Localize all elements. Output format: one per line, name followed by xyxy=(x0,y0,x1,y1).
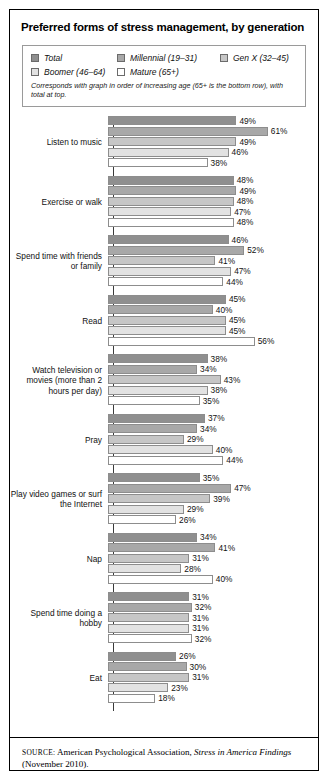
bar-group-bars: 31%32%31%31%32% xyxy=(108,592,318,645)
bar-group: Spend time doing a hobby31%32%31%31%32% xyxy=(10,592,318,652)
legend-swatch-millennial xyxy=(117,54,125,62)
bar xyxy=(108,424,197,433)
bar-row: 40% xyxy=(108,445,318,454)
bar-group: Watch television or movies (more than 2 … xyxy=(10,354,318,414)
bar xyxy=(108,137,236,146)
bar-value-label: 49% xyxy=(239,186,256,196)
bar-row: 31% xyxy=(108,554,318,563)
bar xyxy=(108,484,231,493)
bar-row: 23% xyxy=(108,683,318,692)
bar-group: Pray37%34%29%40%44% xyxy=(10,414,318,474)
legend-item-total: Total xyxy=(31,53,117,63)
bar-row: 41% xyxy=(108,256,318,265)
bar-group-label: Listen to music xyxy=(10,137,108,147)
bar xyxy=(108,435,184,444)
bar-value-label: 61% xyxy=(271,126,288,136)
legend-item-mature: Mature (65+) xyxy=(117,67,179,77)
bar xyxy=(108,365,197,374)
legend-item-genx: Gen X (32–45) xyxy=(220,53,289,63)
legend-swatch-mature xyxy=(117,68,125,76)
bar-value-label: 38% xyxy=(211,385,228,395)
legend-label-genx: Gen X (32–45) xyxy=(233,53,289,63)
bar-row: 35% xyxy=(108,473,318,482)
bar xyxy=(108,386,208,395)
bar xyxy=(108,207,231,216)
bar-group: Read45%40%45%45%56% xyxy=(10,295,318,355)
bar-row: 47% xyxy=(108,484,318,493)
bar xyxy=(108,634,192,643)
bar-row: 31% xyxy=(108,613,318,622)
bar-group-bars: 35%47%39%29%26% xyxy=(108,473,318,526)
chart-figure: Preferred forms of stress management, by… xyxy=(9,9,319,771)
bar-group-label: Nap xyxy=(10,554,108,564)
bar-group-bars: 26%30%31%23%18% xyxy=(108,652,318,705)
bar-value-label: 43% xyxy=(224,375,241,385)
bar-value-label: 48% xyxy=(237,217,254,227)
bar xyxy=(108,316,226,325)
bar xyxy=(108,662,187,671)
bar-row: 29% xyxy=(108,435,318,444)
bar-row: 46% xyxy=(108,235,318,244)
bar-value-label: 49% xyxy=(239,137,256,147)
bar xyxy=(108,683,168,692)
bar-row: 29% xyxy=(108,505,318,514)
bar xyxy=(108,603,192,612)
bar-value-label: 39% xyxy=(213,494,230,504)
bar-value-label: 47% xyxy=(234,483,251,493)
bar-row: 47% xyxy=(108,267,318,276)
bar-row: 45% xyxy=(108,316,318,325)
bar-value-label: 38% xyxy=(211,354,228,364)
bar-row: 34% xyxy=(108,424,318,433)
bar xyxy=(108,116,236,125)
bar-group-bars: 45%40%45%45%56% xyxy=(108,295,318,348)
bar-value-label: 46% xyxy=(232,147,249,157)
bar-group: Exercise or walk48%49%48%47%48% xyxy=(10,176,318,236)
bar-value-label: 26% xyxy=(179,515,196,525)
bar-row: 38% xyxy=(108,386,318,395)
bar xyxy=(108,186,236,195)
bar-value-label: 37% xyxy=(208,413,225,423)
bar-value-label: 31% xyxy=(192,623,209,633)
bar-value-label: 23% xyxy=(171,683,188,693)
bar xyxy=(108,396,200,405)
bar xyxy=(108,127,268,136)
bar xyxy=(108,305,213,314)
bar-row: 38% xyxy=(108,158,318,167)
bar xyxy=(108,473,200,482)
bar xyxy=(108,176,234,185)
bar-value-label: 47% xyxy=(234,207,251,217)
bar xyxy=(108,592,189,601)
bar-group-label: Eat xyxy=(10,673,108,683)
bar-value-label: 35% xyxy=(203,473,220,483)
bar-row: 48% xyxy=(108,218,318,227)
legend-swatch-genx xyxy=(220,54,228,62)
bar-row: 40% xyxy=(108,305,318,314)
legend-swatch-boomer xyxy=(31,68,39,76)
bar-group-bars: 34%41%31%28%40% xyxy=(108,533,318,586)
bar-value-label: 29% xyxy=(187,434,204,444)
bar-value-label: 34% xyxy=(200,364,217,374)
bar-row: 61% xyxy=(108,127,318,136)
bar-group: Eat26%30%31%23%18% xyxy=(10,652,318,712)
bar-value-label: 31% xyxy=(192,672,209,682)
bar-row: 44% xyxy=(108,277,318,286)
bar-row: 26% xyxy=(108,652,318,661)
bar-row: 34% xyxy=(108,365,318,374)
bar-group-label: Spend time with friends or family xyxy=(10,251,108,272)
bar xyxy=(108,375,221,384)
bar xyxy=(108,267,231,276)
bar-value-label: 35% xyxy=(203,396,220,406)
bar-row: 47% xyxy=(108,207,318,216)
bar xyxy=(108,564,181,573)
bar xyxy=(108,694,155,703)
source-text-before: American Psychological Association, xyxy=(55,747,194,757)
bar-row: 49% xyxy=(108,186,318,195)
bar xyxy=(108,277,223,286)
bar-row: 45% xyxy=(108,326,318,335)
bar-row: 31% xyxy=(108,673,318,682)
bar xyxy=(108,673,189,682)
source-note: SOURCE: American Psychological Associati… xyxy=(10,737,318,770)
bar-value-label: 44% xyxy=(226,277,243,287)
bar-value-label: 18% xyxy=(158,693,175,703)
bar-value-label: 31% xyxy=(192,613,209,623)
